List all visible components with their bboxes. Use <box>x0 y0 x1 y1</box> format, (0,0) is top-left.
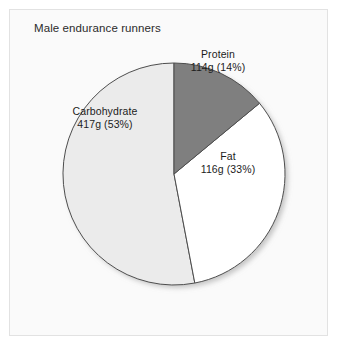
pie-chart: Protein 114g (14%) Fat 116g (33%) Carboh… <box>10 10 329 337</box>
pie-label-fat: Fat 116g (33%) <box>180 150 276 176</box>
pie-label-fat-value: 116g (33%) <box>180 163 276 176</box>
pie-label-carbohydrate: Carbohydrate 417g (53%) <box>50 105 160 131</box>
chart-panel: Male endurance runners Protein <box>9 9 328 336</box>
pie-label-protein-name: Protein <box>170 48 266 61</box>
pie-label-fat-name: Fat <box>180 150 276 163</box>
pie-label-protein-value: 114g (14%) <box>170 61 266 74</box>
figure-root: Male endurance runners Protein <box>0 0 337 345</box>
pie-label-protein: Protein 114g (14%) <box>170 48 266 74</box>
pie-label-carbohydrate-value: 417g (53%) <box>50 118 160 131</box>
pie-label-carbohydrate-name: Carbohydrate <box>50 105 160 118</box>
